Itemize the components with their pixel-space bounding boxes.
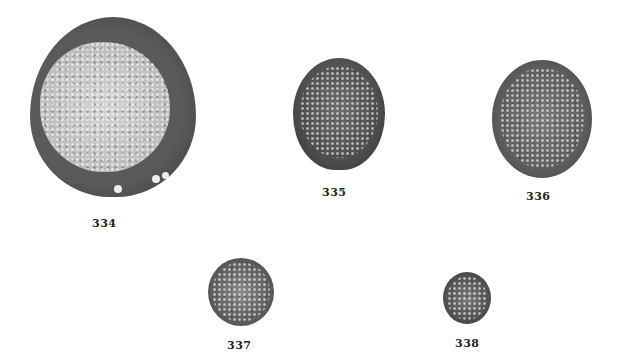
cell-texture-337 <box>212 262 270 322</box>
vacuole <box>162 172 169 179</box>
vacuole <box>114 185 122 193</box>
figure-label-337: 337 <box>227 339 251 352</box>
cell-texture-334 <box>40 42 170 172</box>
cell-texture-335 <box>300 66 378 158</box>
figure-label-335: 335 <box>322 186 346 199</box>
figure-label-338: 338 <box>455 337 479 350</box>
cell-texture-338 <box>447 276 487 320</box>
figure-label-336: 336 <box>526 190 550 203</box>
vacuole <box>152 175 160 183</box>
cell-texture-336 <box>500 68 584 168</box>
figure-label-334: 334 <box>92 217 116 230</box>
